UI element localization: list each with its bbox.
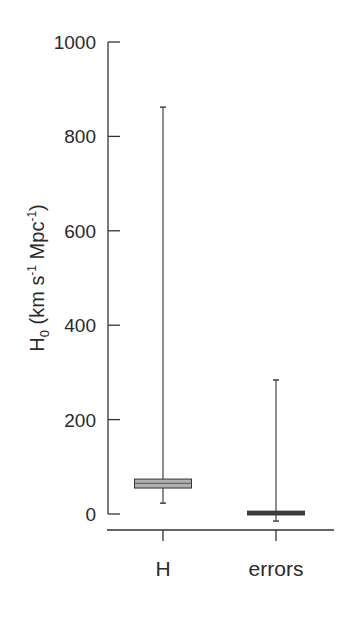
y-tick-label: 1000 (54, 32, 96, 53)
x-axis: Herrors (107, 530, 334, 580)
boxes (135, 107, 305, 521)
y-tick-label: 800 (64, 126, 96, 147)
y-axis: 02004006008001000 (54, 32, 120, 525)
y-tick-label: 0 (85, 504, 96, 525)
box-errors (248, 380, 305, 521)
y-tick-label: 400 (64, 315, 96, 336)
box-H (135, 107, 192, 503)
y-tick-label: 600 (64, 221, 96, 242)
y-tick-label: 200 (64, 410, 96, 431)
x-tick-label: H (155, 557, 170, 580)
box-plot-chart: 02004006008001000 Herrors H0 (km s-1 Mpc… (0, 0, 364, 619)
x-tick-label: errors (249, 557, 304, 580)
y-axis-label: H0 (km s-1 Mpc-1) (25, 204, 52, 351)
